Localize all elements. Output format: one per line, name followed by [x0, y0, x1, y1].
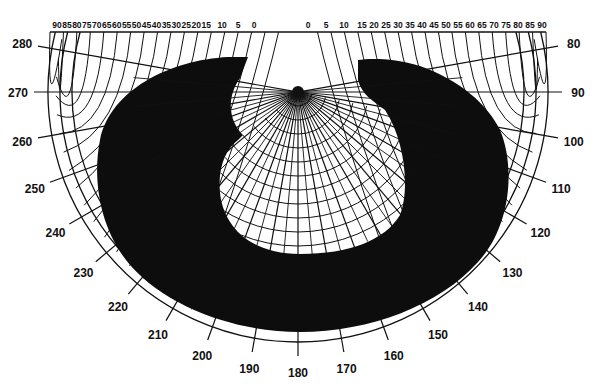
azimuth-label: 250: [25, 182, 45, 196]
top-scale-left-label: 80: [72, 20, 82, 30]
azimuth-label: 100: [564, 135, 584, 149]
top-scale-left-label: 50: [132, 20, 142, 30]
shading-mask-protractor: 8090100110120130140150160170180190200210…: [0, 0, 595, 387]
top-scale-left-label: 55: [122, 20, 132, 30]
top-scale-right-label: 75: [501, 20, 511, 30]
top-scale-right-label: 35: [405, 20, 415, 30]
azimuth-label: 210: [148, 328, 168, 342]
top-scale-right-label: 20: [369, 20, 379, 30]
fin-angle-curve-left: [58, 32, 63, 89]
top-scale-right-label: 60: [465, 20, 475, 30]
azimuth-label: 140: [468, 300, 488, 314]
top-scale-left-label: 65: [102, 20, 112, 30]
top-scale-left-label: 15: [201, 20, 211, 30]
azimuth-label: 190: [239, 362, 259, 376]
top-scale-left-label: 45: [142, 20, 152, 30]
top-scale-left-label: 85: [62, 20, 72, 30]
azimuth-label: 160: [384, 349, 404, 363]
top-scale-right-label: 40: [417, 20, 427, 30]
top-scale-right-label: 90: [537, 20, 547, 30]
top-scale-left-label: 60: [112, 20, 122, 30]
top-scale-right-label: 45: [429, 20, 439, 30]
top-scale-right-label: 30: [393, 20, 403, 30]
top-scale-left-label: 20: [191, 20, 201, 30]
top-scale-right-label: 55: [453, 20, 463, 30]
azimuth-label: 270: [8, 86, 28, 100]
top-scale-right-label: 85: [525, 20, 535, 30]
azimuth-label: 240: [45, 226, 65, 240]
azimuth-label: 150: [428, 328, 448, 342]
azimuth-label: 180: [288, 366, 308, 380]
top-scale-left-label: 70: [92, 20, 102, 30]
azimuth-label: 200: [192, 349, 212, 363]
top-scale-right-label: 5: [324, 20, 329, 30]
top-scale-left-label: 40: [152, 20, 162, 30]
azimuth-label: 110: [551, 182, 571, 196]
azimuth-label: 80: [567, 37, 581, 51]
azimuth-label: 130: [502, 266, 522, 280]
top-scale-left-label: 75: [82, 20, 92, 30]
azimuth-label: 170: [337, 362, 357, 376]
top-scale-right-label: 70: [489, 20, 499, 30]
center-point: [292, 86, 304, 98]
top-scale-left-label: 25: [182, 20, 192, 30]
top-scale-right-label: 10: [339, 20, 349, 30]
top-scale-right-label: 80: [513, 20, 523, 30]
fin-angle-curve-right: [533, 32, 538, 89]
azimuth-label: 220: [108, 300, 128, 314]
top-scale-left-label: 35: [162, 20, 172, 30]
azimuth-label: 90: [571, 86, 585, 100]
top-scale-left-label: 30: [172, 20, 182, 30]
azimuth-label: 260: [12, 135, 32, 149]
top-scale-right-label: 65: [477, 20, 487, 30]
azimuth-label: 230: [73, 266, 93, 280]
top-scale-right-label: 0: [306, 20, 311, 30]
top-scale-right-label: 50: [441, 20, 451, 30]
top-scale-left-label: 10: [217, 20, 227, 30]
azimuth-label: 120: [530, 226, 550, 240]
top-scale-left-label: 0: [252, 20, 257, 30]
top-scale-right-label: 15: [357, 20, 367, 30]
top-scale-right-label: 25: [381, 20, 391, 30]
top-scale-left-label: 90: [52, 20, 62, 30]
top-scale-left-label: 5: [236, 20, 241, 30]
azimuth-label: 280: [12, 37, 32, 51]
